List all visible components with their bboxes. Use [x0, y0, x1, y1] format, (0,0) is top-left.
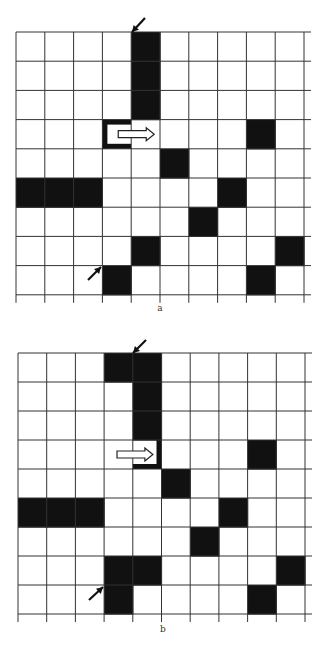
move-arrow-icon [117, 448, 153, 461]
grid-b [0, 0, 330, 653]
frame-bottom [133, 464, 162, 469]
black-cell [133, 411, 162, 441]
black-cell [133, 382, 162, 412]
black-cell [276, 556, 305, 586]
pointer-arrow-icon [89, 587, 103, 600]
black-cell [104, 585, 133, 615]
black-cell [219, 498, 248, 528]
black-cell [248, 440, 277, 470]
black-cell [104, 556, 133, 586]
panel-b-label: b [160, 624, 166, 634]
panel-b: b [0, 0, 330, 653]
black-cell [75, 498, 104, 528]
black-cell [248, 585, 277, 615]
black-cell [133, 556, 162, 586]
black-cell [47, 498, 76, 528]
black-cell [104, 353, 133, 383]
black-cell [190, 527, 219, 557]
pointer-arrow-icon [133, 340, 146, 353]
black-cell [133, 353, 162, 383]
black-cell [18, 498, 47, 528]
black-cell [162, 469, 191, 499]
